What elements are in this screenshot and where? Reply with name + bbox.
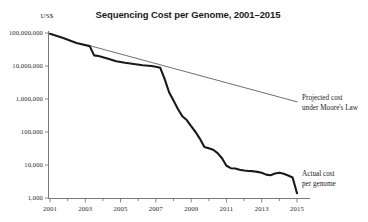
x-tick-label: 2015 xyxy=(290,205,304,212)
x-tick-label: 2003 xyxy=(78,205,92,212)
x-tick-label: 2013 xyxy=(255,205,269,212)
y-tick-label: 10,000,000 xyxy=(12,62,43,69)
moore-annotation-line-1: Projected cost xyxy=(302,94,343,102)
y-axis-unit-label: US$ xyxy=(40,12,53,20)
moore-annotation-line-2: under Moore's Law xyxy=(302,104,359,112)
chart-title: Sequencing Cost per Genome, 2001–2015 xyxy=(96,9,282,20)
x-tick-label: 2009 xyxy=(184,205,198,212)
y-tick-label: 10,000 xyxy=(24,161,43,168)
y-tick-label: 100,000 xyxy=(21,128,44,135)
x-tick-label: 2011 xyxy=(220,205,234,212)
y-tick-label: 1,000 xyxy=(28,194,44,201)
y-tick-label: 100,000,000 xyxy=(9,29,44,36)
y-tick-label: 1,000,000 xyxy=(16,95,44,102)
x-tick-label: 2007 xyxy=(149,205,163,212)
sequencing-cost-chart: Sequencing Cost per Genome, 2001–2015 US… xyxy=(0,0,368,222)
chart-figure: Sequencing Cost per Genome, 2001–2015 US… xyxy=(0,0,368,222)
x-tick-label: 2001 xyxy=(43,205,57,212)
x-tick-label: 2005 xyxy=(114,205,128,212)
actual-annotation-line-1: Actual cost xyxy=(302,170,335,178)
actual-annotation-line-2: per genome xyxy=(302,180,336,188)
